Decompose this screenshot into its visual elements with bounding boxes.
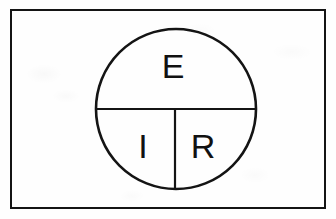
ohms-law-diagram: E I R bbox=[0, 0, 336, 219]
figure-canvas: E I R bbox=[0, 0, 336, 219]
label-current-i: I bbox=[138, 127, 147, 165]
label-resistance-r: R bbox=[191, 127, 216, 165]
label-voltage-e: E bbox=[162, 47, 185, 85]
